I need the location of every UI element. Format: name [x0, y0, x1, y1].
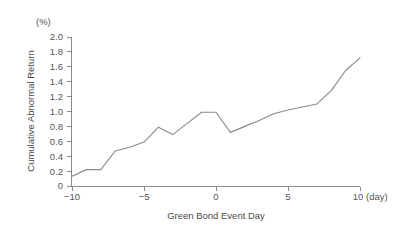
y-tick-label-0-4: 0.4	[50, 151, 63, 162]
y-tick-label-1-2: 1.2	[50, 91, 63, 102]
y-tick-label-0-6: 0.6	[50, 136, 63, 147]
y-tick-label-1-8: 1.8	[50, 46, 63, 57]
chart-container: (%) Cumulative Abnormal Return 2.0 1.8 1…	[0, 0, 408, 230]
y-tick-label-1-6: 1.6	[50, 61, 63, 72]
x-axis-title: Green Bond Event Day	[167, 210, 265, 221]
y-tick-label-1-0: 1.0	[50, 106, 63, 117]
y-tick-label-0: 0	[58, 180, 63, 191]
x-tick-label-minus-10: −10	[64, 191, 80, 202]
y-tick-label-2-0: 2.0	[50, 31, 63, 42]
y-tick-label-1-4: 1.4	[50, 76, 63, 87]
y-tick-label-0-8: 0.8	[50, 121, 63, 132]
x-axis-unit-label: (day)	[366, 191, 388, 202]
x-tick-label-minus-5: −5	[139, 191, 150, 202]
line-chart: (%) Cumulative Abnormal Return 2.0 1.8 1…	[0, 0, 408, 230]
x-axis-ticks	[72, 187, 360, 191]
y-axis-tick-labels: 2.0 1.8 1.6 1.4 1.2 1.0 0.8 0.6 0.4 0.2 …	[50, 31, 63, 191]
y-axis-unit-label: (%)	[36, 16, 51, 27]
x-axis-tick-labels: −10 −5 0 5 10 (day)	[64, 191, 388, 202]
y-axis-title: Cumulative Abnormal Return	[25, 50, 36, 171]
y-axis-ticks	[67, 37, 72, 186]
data-series-line	[72, 58, 360, 176]
x-tick-label-0: 0	[213, 191, 218, 202]
x-tick-label-5: 5	[285, 191, 290, 202]
y-tick-label-0-2: 0.2	[50, 166, 63, 177]
x-tick-label-10: 10	[353, 191, 364, 202]
